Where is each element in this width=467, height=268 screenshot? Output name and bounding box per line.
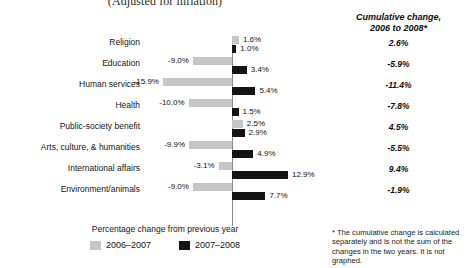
x-axis-caption: Percentage change from previous year bbox=[0, 224, 330, 234]
row-bars: -9.0%7.7% bbox=[0, 183, 330, 204]
row-bars: 1.6%1.0% bbox=[0, 36, 330, 57]
cumulative-value: -11.4% bbox=[330, 78, 467, 99]
bar-value-label: 5.4% bbox=[259, 87, 277, 95]
bar-2006-2007 bbox=[189, 99, 232, 107]
cumulative-value: -5.9% bbox=[330, 57, 467, 78]
row-bars: -15.9%5.4% bbox=[0, 78, 330, 99]
bar-2006-2007 bbox=[193, 57, 232, 65]
cumulative-change-header: Cumulative change, 2006 to 2008* bbox=[330, 12, 467, 34]
chart-title: (Adjusted for inflation) bbox=[0, 0, 330, 9]
bar-2007-2008 bbox=[232, 150, 253, 158]
bar-2007-2008 bbox=[232, 66, 247, 74]
bar-value-label: 1.0% bbox=[240, 45, 258, 53]
bar-value-label: 3.4% bbox=[251, 66, 269, 74]
cumulative-header-line2: 2006 to 2008* bbox=[330, 23, 467, 34]
row-bars: -10.0%1.5% bbox=[0, 99, 330, 120]
bar-2006-2007 bbox=[189, 141, 232, 149]
bar-value-label: 1.6% bbox=[243, 36, 261, 44]
bar-2007-2008 bbox=[232, 87, 255, 95]
bar-2006-2007 bbox=[219, 162, 232, 170]
row-bars: -3.1%12.9% bbox=[0, 162, 330, 183]
bar-2006-2007 bbox=[232, 36, 239, 44]
bar-value-label: -3.1% bbox=[187, 162, 215, 170]
bar-value-label: 1.5% bbox=[243, 108, 261, 116]
bar-value-label: 7.7% bbox=[269, 192, 287, 200]
bar-2006-2007 bbox=[232, 120, 243, 128]
footnote: * The cumulative change is calculated se… bbox=[332, 228, 465, 266]
bar-value-label: 2.5% bbox=[247, 120, 265, 128]
cumulative-value: -5.5% bbox=[330, 141, 467, 162]
legend-item: 2006–2007 bbox=[90, 240, 151, 250]
legend-label: 2007–2008 bbox=[195, 240, 240, 250]
cumulative-value: -1.9% bbox=[330, 183, 467, 204]
cumulative-value: 2.6% bbox=[330, 36, 467, 57]
legend: 2006–20072007–2008 bbox=[0, 240, 330, 250]
row-bars: -9.9%4.9% bbox=[0, 141, 330, 162]
row-bars: 2.5%2.9% bbox=[0, 120, 330, 141]
cumulative-change-column: 2.6%-5.9%-11.4%-7.8%4.5%-5.5%9.4%-1.9% bbox=[330, 36, 467, 221]
bar-value-label: 2.9% bbox=[249, 129, 267, 137]
bar-value-label: 12.9% bbox=[292, 171, 315, 179]
bar-2007-2008 bbox=[232, 192, 265, 200]
cumulative-value: 4.5% bbox=[330, 120, 467, 141]
cumulative-value: -7.8% bbox=[330, 99, 467, 120]
bar-2006-2007 bbox=[163, 78, 232, 86]
legend-block: Percentage change from previous year 200… bbox=[0, 224, 330, 250]
bar-value-label: -10.0% bbox=[157, 99, 185, 107]
bar-value-label: -9.0% bbox=[161, 57, 189, 65]
bar-2007-2008 bbox=[232, 108, 239, 116]
bar-2007-2008 bbox=[232, 171, 288, 179]
legend-swatch bbox=[90, 241, 101, 250]
cumulative-header-line1: Cumulative change, bbox=[330, 12, 467, 23]
legend-label: 2006–2007 bbox=[106, 240, 151, 250]
bar-value-label: -15.9% bbox=[131, 78, 159, 86]
bar-value-label: -9.9% bbox=[157, 141, 185, 149]
bar-2007-2008 bbox=[232, 45, 236, 53]
bar-2007-2008 bbox=[232, 129, 245, 137]
bar-value-label: 4.9% bbox=[257, 150, 275, 158]
legend-item: 2007–2008 bbox=[179, 240, 240, 250]
row-bars: -9.0%3.4% bbox=[0, 57, 330, 78]
cumulative-value: 9.4% bbox=[330, 162, 467, 183]
legend-swatch bbox=[179, 241, 190, 250]
bar-2006-2007 bbox=[193, 183, 232, 191]
bar-value-label: -9.0% bbox=[161, 183, 189, 191]
